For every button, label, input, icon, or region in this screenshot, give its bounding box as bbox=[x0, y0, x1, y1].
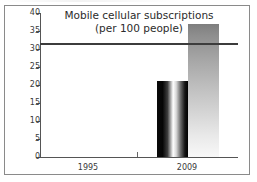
y-tick-label-40: 40 bbox=[18, 8, 40, 17]
chart-plot-area: Mobile cellular subscriptions (per 100 p… bbox=[0, 0, 257, 182]
y-tick-label-0: 0 bbox=[18, 152, 40, 161]
x-axis-line bbox=[40, 157, 238, 158]
y-tick-label-20: 20 bbox=[18, 80, 40, 89]
y-tick-label-5: 5 bbox=[18, 134, 40, 143]
y-axis-line bbox=[40, 13, 41, 158]
x-axis-label-1995: 1995 bbox=[58, 163, 118, 172]
bar-2009-dark bbox=[157, 81, 188, 157]
y-tick-label-10: 10 bbox=[18, 116, 40, 125]
x-axis-label-2009: 2009 bbox=[157, 163, 217, 172]
x-axis-category-divider-tick bbox=[137, 152, 138, 157]
y-tick-label-25: 25 bbox=[18, 62, 40, 71]
y-tick-label-30: 30 bbox=[18, 44, 40, 53]
y-tick-label-35: 35 bbox=[18, 26, 40, 35]
y-tick-label-15: 15 bbox=[18, 98, 40, 107]
reference-line bbox=[40, 43, 238, 45]
page-title: Mobile cellular subscriptions bbox=[44, 9, 234, 22]
